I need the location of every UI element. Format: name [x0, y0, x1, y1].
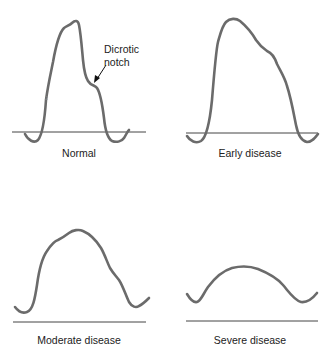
dicrotic-notch-annotation: Dicrotic notch: [104, 43, 139, 68]
label-moderate-disease: Moderate disease: [37, 335, 120, 346]
annotation-line-2: notch: [104, 56, 139, 69]
panel-moderate: [13, 230, 149, 322]
annotation-line-1: Dicrotic: [104, 43, 139, 56]
waveform-early: [187, 19, 318, 142]
panel-severe: [186, 267, 318, 321]
waveform-figure: [0, 0, 328, 354]
label-early-disease: Early disease: [218, 148, 281, 159]
waveform-normal: [25, 21, 129, 142]
waveform-moderate: [15, 230, 149, 313]
label-severe-disease: Severe disease: [214, 335, 286, 346]
panel-early: [186, 19, 318, 142]
panel-normal: [12, 21, 146, 142]
small-mark: 2: [45, 96, 48, 101]
waveform-severe: [187, 267, 317, 303]
label-normal: Normal: [62, 148, 96, 159]
